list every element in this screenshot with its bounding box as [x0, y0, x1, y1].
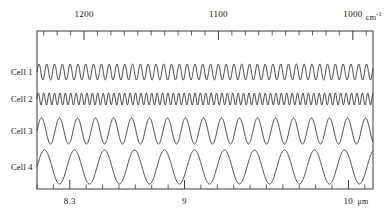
- bottom-axis-ticks: [37, 180, 365, 189]
- trace-cell-1: [37, 64, 373, 80]
- trace-cell-2: [37, 93, 373, 105]
- top-axis-ticks: [44, 31, 367, 40]
- spectrum-figure: 1200 1100 1000 cm-1 8.3 9 10 μm Cell 1 C…: [0, 0, 389, 219]
- plot-frame: [37, 31, 373, 189]
- fringe-traces: [37, 64, 373, 184]
- trace-cell-3: [37, 118, 373, 144]
- trace-cell-4: [37, 150, 373, 184]
- plot-area: [0, 0, 389, 219]
